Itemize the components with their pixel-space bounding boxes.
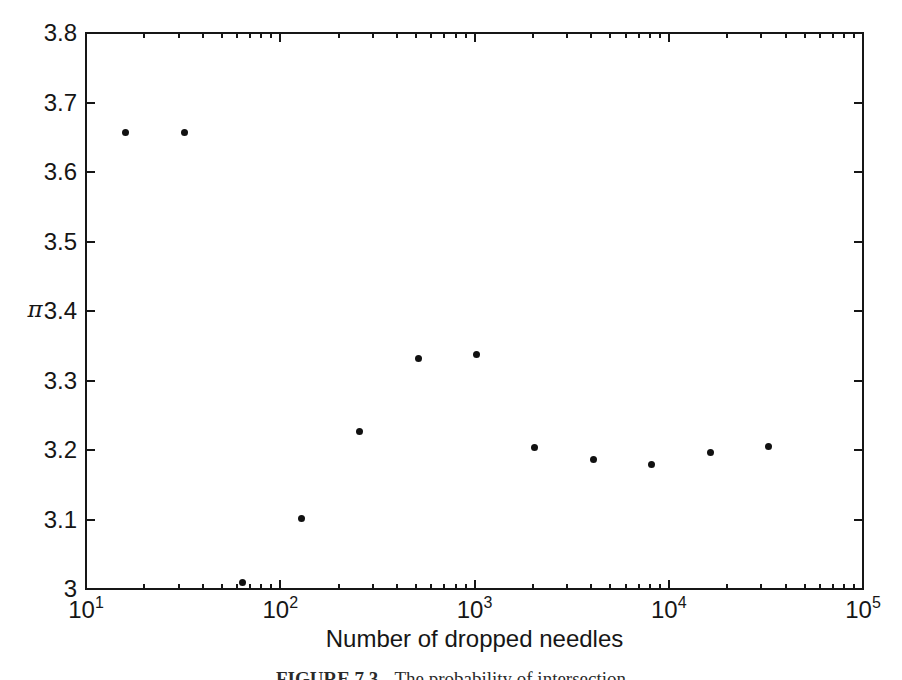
y-major-tick-left	[86, 310, 95, 312]
x-minor-tick-bottom	[843, 584, 845, 589]
x-minor-tick-top	[625, 33, 627, 38]
x-major-tick-bottom	[279, 580, 281, 589]
data-point	[181, 129, 188, 136]
y-major-tick-right	[854, 171, 863, 173]
x-minor-tick-top	[566, 33, 568, 38]
x-tick-exponent: 1	[95, 594, 104, 611]
y-major-tick-left	[86, 32, 95, 34]
x-minor-tick-bottom	[372, 584, 374, 589]
x-minor-tick-top	[249, 33, 251, 38]
x-minor-tick-bottom	[638, 584, 640, 589]
y-tick-label: 3.6	[0, 159, 77, 185]
x-major-tick-top	[85, 33, 87, 42]
x-minor-tick-bottom	[785, 584, 787, 589]
x-minor-tick-bottom	[249, 584, 251, 589]
x-minor-tick-bottom	[532, 584, 534, 589]
data-point	[298, 515, 305, 522]
x-minor-tick-bottom	[804, 584, 806, 589]
x-minor-tick-top	[532, 33, 534, 38]
x-minor-tick-top	[832, 33, 834, 38]
x-minor-tick-bottom	[415, 584, 417, 589]
x-minor-tick-top	[590, 33, 592, 38]
data-point	[415, 355, 422, 362]
y-tick-label: 3.4	[0, 298, 77, 324]
x-minor-tick-top	[143, 33, 145, 38]
x-minor-tick-top	[415, 33, 417, 38]
x-major-tick-top	[862, 33, 864, 42]
x-minor-tick-bottom	[338, 584, 340, 589]
y-major-tick-right	[854, 519, 863, 521]
plot-box	[85, 32, 864, 590]
y-tick-label: 3	[0, 576, 77, 602]
x-minor-tick-bottom	[202, 584, 204, 589]
x-minor-tick-bottom	[455, 584, 457, 589]
x-minor-tick-top	[785, 33, 787, 38]
x-minor-tick-bottom	[566, 584, 568, 589]
figure-caption: FIGURE 7.3The probability of intersectio…	[0, 668, 902, 680]
x-minor-tick-bottom	[178, 584, 180, 589]
x-minor-tick-top	[178, 33, 180, 38]
figure-caption-label: FIGURE 7.3	[276, 668, 378, 680]
x-minor-tick-bottom	[430, 584, 432, 589]
y-major-tick-left	[86, 588, 95, 590]
y-major-tick-left	[86, 241, 95, 243]
x-minor-tick-bottom	[659, 584, 661, 589]
x-major-tick-top	[279, 33, 281, 42]
data-point	[473, 351, 480, 358]
x-minor-tick-bottom	[443, 584, 445, 589]
x-minor-tick-bottom	[260, 584, 262, 589]
x-minor-tick-bottom	[221, 584, 223, 589]
x-minor-tick-top	[236, 33, 238, 38]
x-minor-tick-bottom	[726, 584, 728, 589]
figure-caption-text: The probability of intersection	[394, 668, 626, 680]
x-minor-tick-top	[638, 33, 640, 38]
x-tick-label: 105	[823, 597, 902, 623]
x-minor-tick-bottom	[832, 584, 834, 589]
x-major-tick-bottom	[668, 580, 670, 589]
x-minor-tick-top	[221, 33, 223, 38]
x-minor-tick-bottom	[143, 584, 145, 589]
data-point	[122, 129, 129, 136]
x-minor-tick-bottom	[270, 584, 272, 589]
x-minor-tick-top	[819, 33, 821, 38]
y-tick-label: 3.2	[0, 437, 77, 463]
x-tick-label: 102	[240, 597, 320, 623]
figure-page: π Number of dropped needles 101102103104…	[0, 0, 902, 680]
y-major-tick-right	[854, 310, 863, 312]
y-tick-label: 3.7	[0, 90, 77, 116]
x-tick-label: 103	[435, 597, 515, 623]
x-minor-tick-top	[338, 33, 340, 38]
y-tick-label: 3.3	[0, 368, 77, 394]
x-minor-tick-top	[260, 33, 262, 38]
x-minor-tick-top	[455, 33, 457, 38]
x-minor-tick-top	[726, 33, 728, 38]
y-major-tick-left	[86, 102, 95, 104]
x-minor-tick-bottom	[590, 584, 592, 589]
y-major-tick-right	[854, 380, 863, 382]
x-minor-tick-bottom	[819, 584, 821, 589]
x-minor-tick-bottom	[609, 584, 611, 589]
y-major-tick-left	[86, 449, 95, 451]
x-minor-tick-bottom	[649, 584, 651, 589]
x-minor-tick-top	[804, 33, 806, 38]
x-axis-label: Number of dropped needles	[274, 625, 675, 653]
x-minor-tick-bottom	[760, 584, 762, 589]
x-tick-label: 104	[629, 597, 709, 623]
y-major-tick-right	[854, 241, 863, 243]
y-major-tick-right	[854, 32, 863, 34]
x-minor-tick-top	[649, 33, 651, 38]
x-tick-exponent: 2	[289, 594, 298, 611]
y-tick-label: 3.8	[0, 20, 77, 46]
x-minor-tick-top	[270, 33, 272, 38]
data-point	[707, 449, 714, 456]
x-minor-tick-top	[430, 33, 432, 38]
x-tick-exponent: 3	[483, 594, 492, 611]
x-minor-tick-bottom	[396, 584, 398, 589]
y-major-tick-right	[854, 588, 863, 590]
y-tick-label: 3.1	[0, 507, 77, 533]
x-major-tick-top	[668, 33, 670, 42]
x-minor-tick-top	[760, 33, 762, 38]
x-minor-tick-top	[843, 33, 845, 38]
x-minor-tick-top	[372, 33, 374, 38]
x-minor-tick-top	[465, 33, 467, 38]
